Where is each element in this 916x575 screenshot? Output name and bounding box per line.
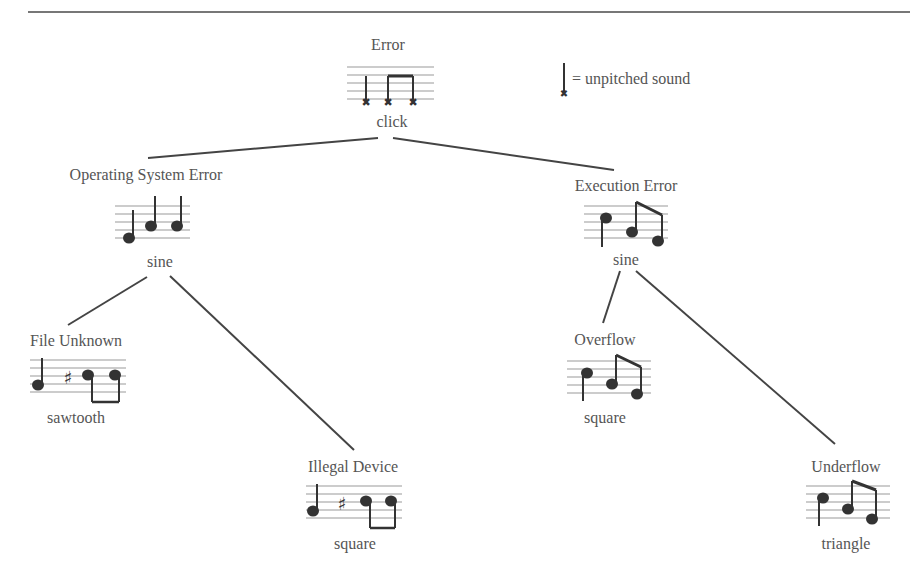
os-error-notation <box>115 196 190 243</box>
unpitched-note-icon: ✖ <box>560 63 568 99</box>
file-unknown-notation: ♯ <box>30 358 126 402</box>
exec-error-notation <box>584 202 668 247</box>
node-file-unknown-waveform: sawtooth <box>47 409 105 427</box>
edge-exec-overflow <box>603 271 620 323</box>
node-error-title: Error <box>371 36 405 54</box>
node-os-error-waveform: sine <box>147 253 173 271</box>
node-illegal-device-waveform: square <box>334 535 376 553</box>
node-os-error-title: Operating System Error <box>70 166 223 184</box>
edge-os-illegal <box>170 276 354 450</box>
edge-error-exec <box>393 138 614 170</box>
tree-edges <box>68 138 835 450</box>
edge-os-file <box>68 277 147 325</box>
svg-text:♯: ♯ <box>338 493 347 514</box>
illegal-device-notation: ♯ <box>306 484 402 528</box>
svg-text:✖: ✖ <box>408 96 417 109</box>
node-file-unknown-title: File Unknown <box>30 332 122 350</box>
overflow-notation <box>567 355 651 401</box>
edge-error-os <box>148 138 378 158</box>
node-error-waveform: click <box>376 113 407 131</box>
node-underflow-waveform: triangle <box>822 535 871 553</box>
error-notation: ✖✖✖ <box>347 67 434 109</box>
node-exec-error-title: Execution Error <box>575 177 678 195</box>
node-illegal-device-title: Illegal Device <box>308 458 398 476</box>
svg-text:✖: ✖ <box>361 96 370 109</box>
node-underflow-title: Underflow <box>811 458 880 476</box>
node-overflow-title: Overflow <box>574 331 635 349</box>
svg-text:✖: ✖ <box>560 88 568 99</box>
svg-text:✖: ✖ <box>383 96 392 109</box>
legend-text: = unpitched sound <box>572 70 690 88</box>
underflow-notation <box>806 481 890 526</box>
node-exec-error-waveform: sine <box>613 251 639 269</box>
node-overflow-waveform: square <box>584 409 626 427</box>
svg-text:♯: ♯ <box>64 367 73 388</box>
edge-exec-underflow <box>636 271 835 444</box>
earcon-hierarchy-diagram: ✖✖✖ ✖ ♯ <box>0 0 916 575</box>
